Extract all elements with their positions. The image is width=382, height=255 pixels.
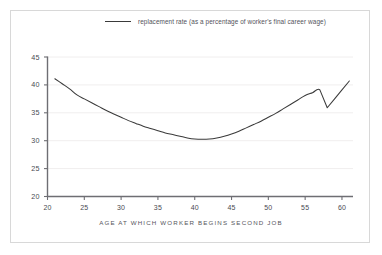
x-axis-title: AGE AT WHICH WORKER BEGINS SECOND JOB [0, 219, 382, 226]
gridlines [48, 57, 354, 169]
y-tick-label: 20 [24, 192, 40, 201]
x-tick-label: 50 [260, 204, 276, 211]
plot-area [0, 0, 382, 255]
y-tick-label: 45 [24, 53, 40, 62]
x-tick-label: 45 [224, 204, 240, 211]
x-tick-label: 60 [334, 204, 350, 211]
data-series-line [55, 79, 349, 140]
x-tick-label: 30 [113, 204, 129, 211]
x-tick-label: 35 [150, 204, 166, 211]
x-tick-label: 40 [187, 204, 203, 211]
x-tick-label: 55 [297, 204, 313, 211]
x-tick-label: 20 [40, 204, 56, 211]
chart-figure: replacement rate (as a percentage of wor… [0, 0, 382, 255]
y-tick-label: 30 [24, 136, 40, 145]
x-tick-label: 25 [76, 204, 92, 211]
y-tick-label: 25 [24, 164, 40, 173]
y-tick-label: 40 [24, 80, 40, 89]
y-tick-label: 35 [24, 108, 40, 117]
